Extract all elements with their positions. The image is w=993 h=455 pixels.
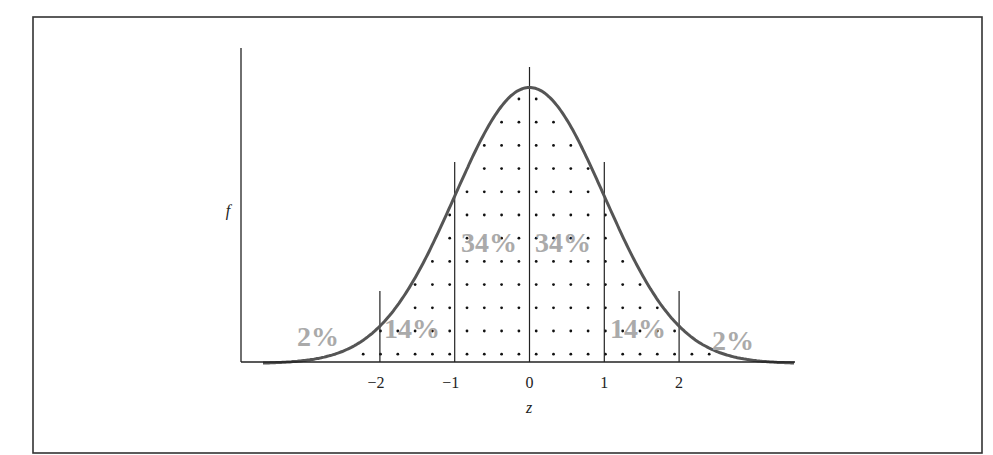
fill-dot xyxy=(656,306,659,309)
fill-dot xyxy=(518,190,521,193)
x-tick-labels: −2−1012 xyxy=(367,374,683,391)
fill-dot xyxy=(431,353,434,356)
fill-dot xyxy=(518,144,521,147)
fill-dot xyxy=(587,330,590,333)
fill-dot xyxy=(448,306,451,309)
fill-dot xyxy=(518,283,521,286)
fill-dot xyxy=(639,283,642,286)
region-label: 2% xyxy=(297,321,339,352)
fill-dot xyxy=(448,237,451,240)
fill-dot xyxy=(552,190,555,193)
fill-dot xyxy=(500,214,503,217)
fill-dot xyxy=(362,353,365,356)
fill-dot xyxy=(673,330,676,333)
fill-dot xyxy=(569,283,572,286)
fill-dot xyxy=(466,330,469,333)
fill-dot xyxy=(621,260,624,263)
fill-dot xyxy=(552,283,555,286)
fill-dot xyxy=(448,353,451,356)
fill-dot xyxy=(518,214,521,217)
fill-dot xyxy=(448,283,451,286)
fill-dot xyxy=(535,260,538,263)
fill-dot xyxy=(569,144,572,147)
fill-dot xyxy=(552,330,555,333)
fill-dot xyxy=(466,214,469,217)
fill-dot xyxy=(414,306,417,309)
fill-dot xyxy=(535,144,538,147)
fill-dot xyxy=(621,306,624,309)
fill-dot xyxy=(466,306,469,309)
fill-dot xyxy=(500,167,503,170)
fill-dot xyxy=(552,214,555,217)
fill-dot xyxy=(483,260,486,263)
fill-dot xyxy=(518,306,521,309)
fill-dot xyxy=(483,353,486,356)
fill-dot xyxy=(466,260,469,263)
fill-dot xyxy=(552,121,555,124)
region-label: 14% xyxy=(610,313,666,344)
fill-dot xyxy=(535,306,538,309)
fill-dot xyxy=(587,306,590,309)
fill-dot xyxy=(483,306,486,309)
fill-dot xyxy=(708,353,711,356)
fill-dot xyxy=(518,98,521,101)
fill-dot xyxy=(518,353,521,356)
fill-dot xyxy=(587,283,590,286)
fill-dot xyxy=(414,353,417,356)
fill-dot xyxy=(518,167,521,170)
fill-dot xyxy=(569,353,572,356)
x-tick-label: −2 xyxy=(367,374,384,391)
fill-dot xyxy=(483,330,486,333)
x-axis-label: z xyxy=(525,399,533,416)
fill-dot xyxy=(569,190,572,193)
x-tick-label: 0 xyxy=(526,374,534,391)
region-label: 34% xyxy=(535,227,591,258)
region-label: 14% xyxy=(384,313,440,344)
fill-dot xyxy=(552,353,555,356)
fill-dot xyxy=(639,353,642,356)
fill-dot xyxy=(431,260,434,263)
y-axis-label: f xyxy=(226,202,233,220)
fill-dot xyxy=(535,214,538,217)
fill-dot xyxy=(500,144,503,147)
fill-dot xyxy=(639,306,642,309)
fill-dot xyxy=(587,214,590,217)
region-label: 2% xyxy=(712,325,754,356)
fill-dot xyxy=(396,353,399,356)
fill-dot xyxy=(500,121,503,124)
fill-dot xyxy=(552,144,555,147)
fill-dot xyxy=(466,283,469,286)
fill-dot xyxy=(483,167,486,170)
fill-dot xyxy=(483,214,486,217)
fill-dot xyxy=(448,214,451,217)
x-tick-label: 2 xyxy=(675,374,683,391)
fill-dot xyxy=(673,353,676,356)
fill-dot xyxy=(587,190,590,193)
fill-dot xyxy=(535,121,538,124)
fill-dot xyxy=(466,190,469,193)
fill-dot xyxy=(691,353,694,356)
fill-dot xyxy=(535,353,538,356)
x-tick-label: 1 xyxy=(600,374,608,391)
fill-dot xyxy=(466,353,469,356)
fill-dot xyxy=(518,237,521,240)
fill-dot xyxy=(569,214,572,217)
fill-dot xyxy=(500,353,503,356)
fill-dot xyxy=(621,353,624,356)
fill-dot xyxy=(483,283,486,286)
fill-dot xyxy=(587,167,590,170)
fill-dot xyxy=(448,330,451,333)
fill-dot xyxy=(656,353,659,356)
fill-dot xyxy=(621,283,624,286)
fill-dot xyxy=(431,283,434,286)
fill-dot xyxy=(587,353,590,356)
fill-dot xyxy=(518,121,521,124)
fill-dot xyxy=(518,260,521,263)
fill-dot xyxy=(500,306,503,309)
fill-dot xyxy=(587,260,590,263)
fill-dot xyxy=(569,167,572,170)
region-label: 34% xyxy=(461,227,517,258)
fill-dot xyxy=(483,190,486,193)
x-tick-label: −1 xyxy=(442,374,459,391)
fill-dot xyxy=(535,330,538,333)
